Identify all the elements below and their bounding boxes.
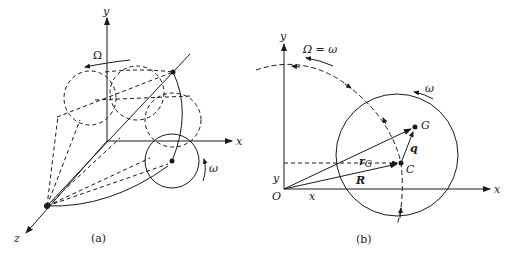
small-rotation-label-a: ω [209, 162, 218, 175]
caption-b: (b) [356, 233, 372, 246]
apex-dot [44, 203, 50, 209]
coord-x-label: x [309, 190, 316, 203]
orbit-arrow-4 [400, 208, 401, 218]
point-C-label: C [406, 163, 415, 176]
panel-b [256, 44, 490, 225]
big-rotation-label-a: Ω [93, 49, 102, 62]
disk-center-dot [170, 159, 175, 164]
vector-rG-label: rG [359, 155, 372, 169]
x-axis-label-a: x [236, 135, 243, 148]
orbit-arrow-3 [383, 118, 386, 124]
z-axis-label-a: z [13, 232, 20, 245]
big-rotation-arrow-b [306, 58, 333, 66]
vector-R [284, 164, 397, 189]
dashed-cone-lines [47, 70, 190, 206]
figure-canvas: y x z Ω ω (a) y x Ω = ω ω O y x C [0, 0, 509, 258]
caption-a: (a) [91, 232, 106, 245]
y-axis-label-a: y [102, 5, 110, 18]
vector-q-label: q [410, 142, 418, 155]
spin-axis-line [47, 54, 190, 206]
y-axis-label-b: y [279, 30, 287, 43]
vector-rG [284, 129, 411, 189]
point-G-label: G [421, 119, 430, 132]
point-C-dot [399, 161, 404, 166]
disk-b [336, 94, 458, 216]
vector-R-label: R [355, 174, 365, 187]
orbit-arrow-1 [292, 66, 300, 67]
x-axis-label-b: x [494, 183, 501, 196]
vector-rG-subscript: G [365, 159, 372, 169]
origin-label: O [272, 190, 281, 203]
top-contact-dot [171, 70, 176, 75]
small-rotation-label-b: ω [425, 82, 434, 95]
small-rotation-arrow-a [203, 159, 205, 181]
coord-y-label: y [272, 172, 280, 185]
point-G-dot [413, 125, 418, 130]
contact-path [172, 72, 182, 161]
big-rotation-label-b: Ω = ω [302, 43, 337, 56]
panel-a [26, 18, 232, 233]
orbit-arrow-2 [345, 84, 351, 88]
